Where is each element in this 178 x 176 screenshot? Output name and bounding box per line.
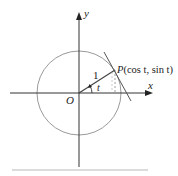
point-coordinates: (cos t, sin t)	[123, 64, 173, 76]
x-axis-label: x	[147, 79, 153, 91]
point-label: P(cos t, sin t)	[116, 64, 174, 76]
y-axis-label: y	[83, 7, 89, 19]
y-axis-arrow-icon	[76, 12, 82, 20]
unit-circle-diagram: y x O 1 t P(cos t, sin t)	[0, 0, 178, 176]
origin-label: O	[66, 94, 74, 106]
tangent-line	[104, 52, 131, 101]
angle-label: t	[97, 82, 100, 93]
radius-label: 1	[93, 69, 99, 81]
